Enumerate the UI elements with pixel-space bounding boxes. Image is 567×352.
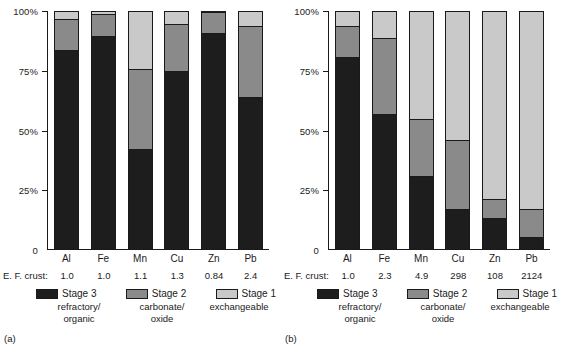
bar-slot — [85, 11, 122, 250]
panel-label-a: (a) — [4, 333, 16, 344]
y-axis-labels-b: 100%75%50%25%0 — [281, 11, 326, 250]
bar-segment-stage-1 — [446, 12, 469, 140]
legend-sublabel: carbonate/oxide — [403, 301, 483, 324]
bar-slot — [232, 11, 269, 250]
stacked-bar[interactable] — [482, 11, 507, 250]
bar-slot — [476, 11, 513, 250]
bar-segment-stage-1 — [373, 12, 396, 38]
legend-label: Stage 3 — [343, 288, 377, 299]
ef-crust-value: 298 — [440, 270, 477, 281]
stacked-bar[interactable] — [519, 11, 544, 250]
ef-crust-value: 2.4 — [232, 270, 269, 281]
bar-segment-stage-1 — [520, 12, 543, 209]
ef-crust-value: 1.1 — [122, 270, 159, 281]
stacked-bar[interactable] — [409, 11, 434, 250]
stacked-bar[interactable] — [128, 11, 153, 250]
bar-segment-stage-2 — [165, 24, 188, 71]
y-axis-tick — [323, 190, 328, 191]
legend-sublabel: exchangeable — [483, 301, 557, 324]
legend-sublabel: carbonate/oxide — [122, 301, 202, 324]
bar-segment-stage-3 — [336, 57, 359, 249]
stacked-bar[interactable] — [164, 11, 189, 250]
bar-segment-stage-1 — [129, 12, 152, 69]
category-label: Cu — [439, 253, 476, 264]
legend-item[interactable]: Stage 2 — [126, 288, 186, 299]
stacked-bar[interactable] — [91, 11, 116, 250]
ef-crust-value: 0.84 — [196, 270, 233, 281]
ef-crust-label: E. F. crust: — [281, 270, 330, 281]
ef-crust-value: 1.0 — [330, 270, 367, 281]
bar-segment-stage-3 — [483, 218, 506, 249]
figure-root: 100%75%50%25%0 AlFeMnCuZnPb E. F. crust:… — [0, 0, 567, 352]
category-label: Mn — [122, 253, 159, 264]
legend-swatch-icon — [497, 289, 519, 299]
ef-crust-label: E. F. crust: — [0, 270, 49, 281]
y-axis-tick — [42, 11, 47, 12]
legend-sublabel: exchangeable — [202, 301, 276, 324]
legend-item[interactable]: Stage 3 — [317, 288, 377, 299]
bar-slot — [366, 11, 403, 250]
ef-crust-values-a: 1.01.01.11.30.842.4 — [49, 270, 269, 281]
bar-slot — [439, 11, 476, 250]
legend-item[interactable]: Stage 1 — [216, 288, 276, 299]
legend-label: Stage 1 — [242, 288, 276, 299]
plot-area-a — [47, 11, 269, 250]
bar-segment-stage-2 — [410, 119, 433, 176]
ef-crust-value: 4.9 — [403, 270, 440, 281]
y-tick-label: 0 — [33, 245, 38, 256]
category-label: Cu — [158, 253, 195, 264]
y-tick-label: 25% — [300, 185, 319, 196]
legend-item[interactable]: Stage 1 — [497, 288, 557, 299]
bar-segment-stage-1 — [410, 12, 433, 119]
y-axis-tick — [323, 71, 328, 72]
category-label: Zn — [476, 253, 513, 264]
stacked-bar[interactable] — [372, 11, 397, 250]
y-tick-label: 50% — [300, 125, 319, 136]
bar-segment-stage-3 — [202, 33, 225, 249]
y-tick-label: 75% — [300, 65, 319, 76]
chart-panel-b: 100%75%50%25%0 AlFeMnCuZnPb E. F. crust:… — [281, 0, 564, 352]
bar-segment-stage-1 — [55, 12, 78, 19]
ef-crust-value: 2124 — [513, 270, 550, 281]
category-labels-b: AlFeMnCuZnPb — [329, 253, 550, 264]
legend-item[interactable]: Stage 2 — [407, 288, 467, 299]
y-tick-label: 25% — [19, 185, 38, 196]
bar-segment-stage-2 — [202, 12, 225, 33]
y-tick-label: 0 — [314, 245, 319, 256]
legend-label: Stage 1 — [523, 288, 557, 299]
bar-segment-stage-3 — [129, 149, 152, 249]
bar-segment-stage-2 — [373, 38, 396, 114]
bar-slot — [329, 11, 366, 250]
bar-segment-stage-2 — [92, 14, 115, 35]
legend-swatch-icon — [407, 289, 429, 299]
bar-segment-stage-3 — [165, 71, 188, 249]
stacked-bar[interactable] — [335, 11, 360, 250]
y-axis-tick — [42, 131, 47, 132]
ef-crust-values-b: 1.02.34.92981082124 — [330, 270, 550, 281]
y-axis-tick — [323, 11, 328, 12]
bar-segment-stage-2 — [55, 19, 78, 50]
legend-label: Stage 2 — [152, 288, 186, 299]
y-tick-label: 50% — [19, 125, 38, 136]
bar-group-b — [329, 11, 550, 250]
legend-item[interactable]: Stage 3 — [36, 288, 96, 299]
bar-segment-stage-2 — [239, 26, 262, 97]
y-axis-tick — [42, 190, 47, 191]
ef-crust-row-b: E. F. crust: 1.02.34.92981082124 — [281, 270, 550, 281]
legend-sublabel: refractory/organic — [317, 301, 403, 324]
stacked-bar[interactable] — [238, 11, 263, 250]
stacked-bar[interactable] — [445, 11, 470, 250]
legend-a: Stage 3Stage 2Stage 1 refractory/organic… — [36, 288, 276, 324]
bar-slot — [403, 11, 440, 250]
bar-segment-stage-2 — [520, 209, 543, 237]
bar-segment-stage-2 — [336, 26, 359, 57]
y-axis-tick — [42, 71, 47, 72]
y-axis-tick — [323, 131, 328, 132]
stacked-bar[interactable] — [54, 11, 79, 250]
y-axis-labels-a: 100%75%50%25%0 — [0, 11, 45, 250]
bar-segment-stage-3 — [410, 176, 433, 249]
bar-segment-stage-3 — [446, 209, 469, 249]
plot-area-b — [328, 11, 550, 250]
stacked-bar[interactable] — [201, 11, 226, 250]
bar-slot — [122, 11, 159, 250]
